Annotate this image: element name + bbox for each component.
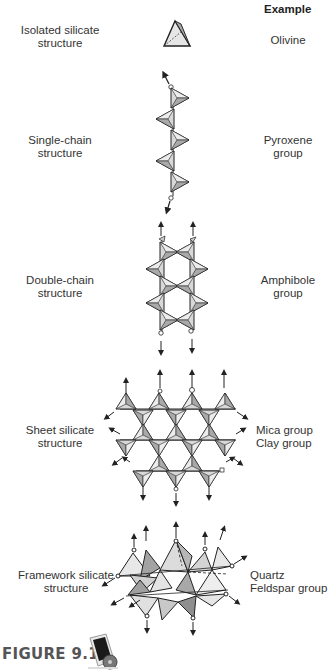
single-chain-drawing xyxy=(156,74,189,211)
sheet-silicate-drawing xyxy=(106,372,246,504)
isolated-tetrahedron xyxy=(164,21,190,46)
double-chain-drawing xyxy=(146,224,208,353)
framework-silicate-drawing xyxy=(104,524,245,633)
cd-rom-icon xyxy=(88,632,118,670)
silicate-structures-diagram xyxy=(0,0,328,670)
